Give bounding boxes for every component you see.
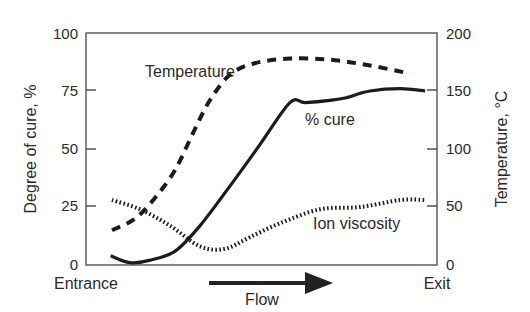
right-tick-200: 200 xyxy=(446,25,471,42)
left-tick-100: 100 xyxy=(53,25,78,42)
chart: 100 75 50 25 0 200 150 100 50 0 Degree o… xyxy=(0,0,530,312)
right-tick-100: 100 xyxy=(446,140,471,157)
right-tick-50: 50 xyxy=(446,197,463,214)
left-axis-title: Degree of cure, % xyxy=(22,85,39,214)
left-tick-25: 25 xyxy=(61,197,78,214)
left-tick-labels: 100 75 50 25 0 xyxy=(53,25,78,273)
left-axis xyxy=(86,90,96,206)
series-cure xyxy=(111,89,426,263)
annotation-ion-viscosity: Ion viscosity xyxy=(313,215,400,232)
x-start-label: Entrance xyxy=(54,275,118,292)
left-tick-50: 50 xyxy=(61,140,78,157)
right-tick-150: 150 xyxy=(446,82,471,99)
right-tick-labels: 200 150 100 50 0 xyxy=(446,25,471,273)
right-tick-0: 0 xyxy=(446,256,454,273)
left-tick-0: 0 xyxy=(70,256,78,273)
right-axis-title: Temperature, °C xyxy=(493,91,510,208)
right-axis xyxy=(427,90,437,206)
x-axis-title: Flow xyxy=(245,291,279,308)
annotation-temperature: Temperature xyxy=(145,63,235,80)
annotation-cure: % cure xyxy=(305,111,355,128)
left-tick-75: 75 xyxy=(61,82,78,99)
x-end-label: Exit xyxy=(424,275,451,292)
